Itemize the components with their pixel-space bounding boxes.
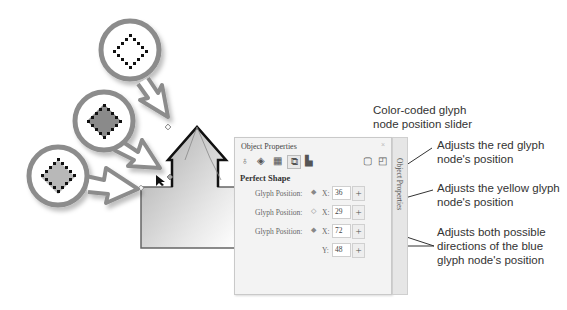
- outline-pen-icon[interactable]: ♁: [239, 155, 251, 167]
- glyph-position-row-blue-x: Glyph Position: ◆ X: 72 +: [235, 224, 391, 238]
- axis-label: X:: [322, 189, 330, 198]
- frame-icon[interactable]: ▢: [361, 155, 373, 167]
- glyph-y-input-blue[interactable]: 48: [332, 243, 351, 257]
- perfect-shape[interactable]: [141, 127, 236, 248]
- side-tab-label: Object Properties: [395, 158, 404, 210]
- transparency-icon[interactable]: ▦: [271, 155, 283, 167]
- image-icon[interactable]: ▙: [303, 155, 315, 167]
- object-properties-side-tab[interactable]: Object Properties: [392, 137, 408, 295]
- yellow-node-icon: ◇: [310, 208, 317, 215]
- glyph-position-row-yellow: Glyph Position: ◇ X: 29 +: [235, 205, 391, 219]
- new-page-icon[interactable]: ◰: [376, 155, 388, 167]
- annotation-red: Adjusts the red glyph node's position: [437, 138, 562, 166]
- axis-label: Y:: [322, 246, 329, 255]
- fill-icon[interactable]: ◈: [255, 155, 267, 167]
- glyph-slider-yellow[interactable]: +: [352, 205, 365, 220]
- glyph-slider-red[interactable]: +: [352, 186, 365, 201]
- blue-node-icon: ◆: [310, 227, 317, 234]
- yellow-glyph-node-handle[interactable]: [165, 124, 171, 130]
- annotation-yellow: Adjusts the yellow glyph node's position: [437, 181, 562, 209]
- glyph-position-row-red: Glyph Position: ◆ X: 36 +: [235, 186, 391, 200]
- glyph-slider-blue-x[interactable]: +: [352, 224, 365, 239]
- axis-label: X:: [322, 227, 330, 236]
- glyph-x-input-red[interactable]: 36: [332, 186, 351, 200]
- object-properties-panel: Object Properties × ♁ ◈ ▦ ⧉ ▙ ▢ ◰ Perfec…: [234, 137, 392, 295]
- section-title: Perfect Shape: [240, 173, 290, 183]
- perfect-shape-icon[interactable]: ⧉: [287, 155, 301, 169]
- close-icon[interactable]: ×: [381, 141, 385, 148]
- row-label: Glyph Position:: [255, 189, 302, 198]
- annotation-blue: Adjusts both possible directions of the …: [437, 225, 565, 267]
- glyph-x-input-yellow[interactable]: 29: [332, 205, 351, 219]
- panel-title: Object Properties: [241, 142, 297, 151]
- axis-label: X:: [322, 208, 330, 217]
- panel-toolbar: ♁ ◈ ▦ ⧉ ▙ ▢ ◰: [239, 155, 389, 169]
- glyph-x-input-blue[interactable]: 72: [332, 224, 351, 238]
- glyph-slider-blue-y[interactable]: +: [352, 243, 365, 258]
- row-label: Glyph Position:: [255, 227, 302, 236]
- annotation-slider: Color-coded glyph node position slider: [373, 103, 493, 131]
- row-label: Glyph Position:: [255, 208, 302, 217]
- red-node-icon: ◆: [310, 189, 317, 196]
- cursor-icon: [156, 175, 165, 186]
- glyph-position-row-blue-y: Y: 48 +: [235, 243, 391, 257]
